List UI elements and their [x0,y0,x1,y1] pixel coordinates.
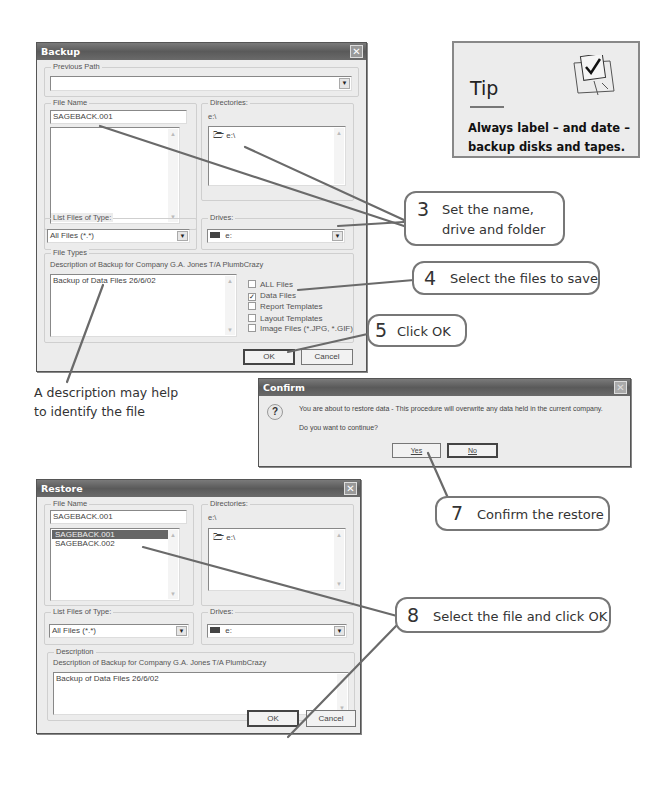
restore-dialog: Restore ✕ File Name SAGEBACK.001 SAGEBAC… [36,479,361,734]
tip-heading: Tip [470,77,498,99]
file-list-item-selected[interactable]: SAGEBACK.001 [52,530,170,539]
chevron-down-icon[interactable]: ▼ [176,626,187,636]
drive-icon [210,232,220,238]
close-icon[interactable]: ✕ [344,482,357,495]
cancel-button[interactable]: Cancel [301,349,353,365]
confirm-question: Do you want to continue? [299,424,378,431]
backup-titlebar: Backup ✕ [37,43,366,60]
scroll-up-icon[interactable]: ▲ [334,128,344,138]
folder-open-icon: 🗁 [213,130,224,140]
restore-list-files-type-group: List Files of Type: All Files (*.*) ▼ [44,612,194,645]
restore-list-files-type-label: List Files of Type: [51,607,113,616]
checkbox-all-files[interactable]: ALL Files [248,280,293,289]
directory-item[interactable]: 🗁 e:\ [211,128,343,144]
scroll-down-icon[interactable]: ▼ [334,579,344,589]
drives-group: Drives: e: ▼ [201,218,354,250]
callout-step-3: 3 Set the name, drive and folder [404,191,565,246]
chevron-down-icon[interactable]: ▼ [339,78,350,89]
backup-dialog: Backup ✕ Previous Path ▼ File Name SAGEB… [36,42,367,372]
directories-scrollbar[interactable]: ▲ [334,128,344,184]
drive-icon [210,627,220,633]
directories-list[interactable]: 🗁 e:\ ▲ [208,126,346,186]
restore-titlebar: Restore ✕ [37,480,360,497]
folder-open-icon: 🗁 [213,532,224,542]
close-icon[interactable]: ✕ [350,45,363,58]
previous-path-label: Previous Path [51,62,102,71]
callout-step-8: 8 Select the file and click OK [395,597,611,633]
tip-text-line2: backup disks and tapes. [468,140,625,154]
restore-description-textarea[interactable]: Backup of Data Files 26/6/02 ▼ [53,672,349,715]
tip-box: Tip Always label – and date – backup dis… [452,41,640,158]
no-button[interactable]: No [447,443,498,458]
file-name-group: File Name SAGEBACK.001 ▲ ▼ [44,103,197,230]
file-list-item[interactable]: SAGEBACK.002 [52,539,178,548]
directories-label: Directories: [208,98,250,107]
chevron-down-icon[interactable]: ▼ [177,231,188,241]
restore-cancel-button[interactable]: Cancel [306,710,356,727]
file-types-group: File Types Description of Backup for Com… [44,253,354,343]
checkbox-layout-templates[interactable]: Layout Templates [248,314,323,323]
file-name-input[interactable]: SAGEBACK.001 [50,110,187,124]
drives-select[interactable]: e: ▼ [207,229,345,243]
scroll-up-icon[interactable]: ▲ [334,530,344,540]
description-textarea[interactable]: Backup of Data Files 26/6/02 ▲ ▼ [50,274,237,337]
scroll-down-icon[interactable]: ▼ [225,325,235,335]
tip-underline [470,106,504,108]
checkbox-image-files[interactable]: Image Files (*.JPG, *.GIF) [248,324,353,333]
file-name-label: File Name [51,98,89,107]
callout-step-5: 5 Click OK [367,314,467,347]
file-list-scrollbar[interactable]: ▲ ▼ [168,129,178,222]
question-icon: ? [267,404,283,420]
checklist-icon [572,55,618,99]
previous-path-group: Previous Path ▼ [44,67,359,97]
description-caption: Description of Backup for Company G.A. J… [50,260,263,269]
list-files-type-group: List Files of Type: All Files (*.*) ▼ [44,218,197,250]
restore-file-name-input[interactable]: SAGEBACK.001 [50,510,187,524]
directories-group: Directories: e:\ 🗁 e:\ ▲ [201,103,354,201]
restore-directories-group: Directories: e:\ 🗁 e:\ ▲ ▼ [201,504,354,606]
file-name-list[interactable]: ▲ ▼ [50,127,180,224]
restore-file-name-group: File Name SAGEBACK.001 SAGEBACK.001 SAGE… [44,504,194,606]
file-list-scrollbar[interactable]: ▲ ▼ [168,530,178,599]
confirm-dialog: Confirm ✕ ? You are about to restore dat… [258,378,631,467]
yes-button[interactable]: Yes [392,443,441,458]
restore-file-name-label: File Name [51,499,89,508]
list-files-type-label: List Files of Type: [51,213,113,222]
checkbox-data-files[interactable]: ✓Data Files [248,291,296,301]
description-scrollbar[interactable]: ▲ ▼ [225,276,235,335]
restore-ok-button[interactable]: OK [247,710,299,727]
scroll-up-icon[interactable]: ▲ [225,276,235,286]
file-types-label: File Types [51,248,89,257]
restore-file-list[interactable]: SAGEBACK.001 SAGEBACK.002 ▲ ▼ [50,528,180,601]
chevron-down-icon[interactable]: ▼ [332,231,343,241]
checkmark-icon[interactable]: ✓ [248,293,256,301]
tip-text-line1: Always label – and date – [468,121,630,135]
confirm-title: Confirm [263,382,305,393]
scroll-down-icon[interactable]: ▼ [168,589,178,599]
list-files-type-select[interactable]: All Files (*.*) ▼ [47,229,190,243]
backup-title: Backup [41,46,80,57]
confirm-message: You are about to restore data - This pro… [299,405,603,412]
directories-scrollbar[interactable]: ▲ ▼ [334,530,344,589]
chevron-down-icon[interactable]: ▼ [334,626,345,636]
previous-path-combo[interactable]: ▼ [50,76,352,91]
checkbox-report-templates[interactable]: Report Templates [248,302,323,311]
scroll-up-icon[interactable]: ▲ [168,129,178,139]
directory-item[interactable]: 🗁 e:\ [211,530,343,546]
callout-step-7: 7 Confirm the restore [435,496,610,531]
description-scrollbar[interactable]: ▼ [337,674,347,713]
close-icon[interactable]: ✕ [614,381,627,394]
restore-directories-label: Directories: [208,499,250,508]
current-directory: e:\ [208,112,216,121]
confirm-titlebar: Confirm ✕ [259,379,630,396]
description-caption-note: A description may help to identify the f… [34,383,178,421]
restore-list-files-type-select[interactable]: All Files (*.*) ▼ [49,624,189,638]
restore-drives-group: Drives: e: ▼ [201,612,354,645]
ok-button[interactable]: OK [243,349,295,365]
restore-drives-label: Drives: [208,607,235,616]
scroll-up-icon[interactable]: ▲ [168,530,178,540]
restore-drives-select[interactable]: e: ▼ [207,624,347,638]
restore-description-label: Description [54,647,96,656]
restore-directories-list[interactable]: 🗁 e:\ ▲ ▼ [208,528,346,591]
restore-description-caption: Description of Backup for Company G.A. J… [53,658,266,667]
